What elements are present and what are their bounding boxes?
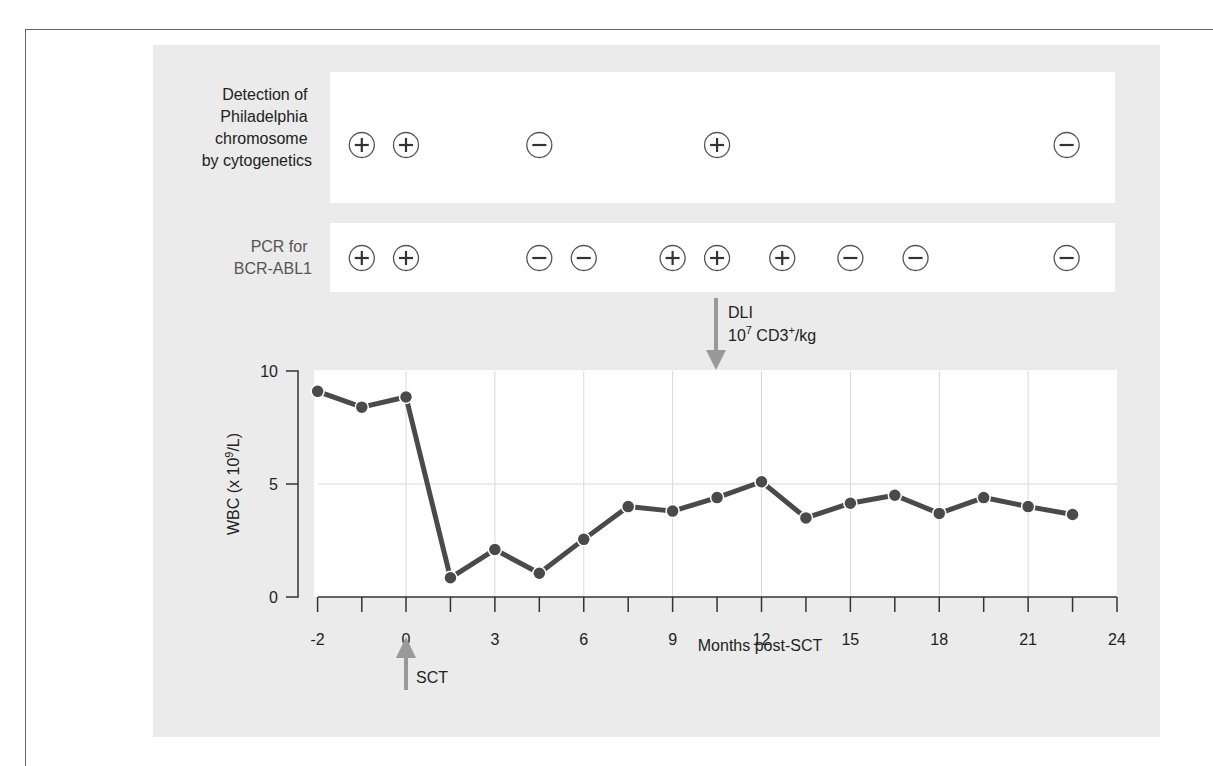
positive-result-icon xyxy=(394,133,419,158)
data-point xyxy=(577,533,590,546)
y-tick-5: 5 xyxy=(269,476,278,493)
data-point xyxy=(488,543,501,556)
y-tick-10: 10 xyxy=(260,363,278,380)
data-point xyxy=(666,505,679,518)
dli-dose-label: 107 CD3+/kg xyxy=(728,324,816,344)
data-point xyxy=(977,491,990,504)
negative-result-icon xyxy=(838,246,863,271)
x-tick-label: 9 xyxy=(668,631,677,648)
negative-result-icon xyxy=(571,246,596,271)
y-axis: 10 5 0 WBC (x 109/L) xyxy=(223,363,298,606)
data-point xyxy=(933,507,946,520)
sct-arrow-icon xyxy=(396,637,416,658)
y-tick-0: 0 xyxy=(269,589,278,606)
positive-result-icon xyxy=(705,133,730,158)
data-point xyxy=(844,497,857,510)
pcr-row-label: PCR for BCR-ABL1 xyxy=(234,238,312,277)
data-point xyxy=(355,401,368,414)
data-point xyxy=(622,500,635,513)
x-tick-label: 15 xyxy=(841,631,859,648)
x-tick-label: 18 xyxy=(930,631,948,648)
data-point xyxy=(1066,508,1079,521)
x-tick-label: 6 xyxy=(579,631,588,648)
data-point xyxy=(533,567,546,580)
cytogenetics-row-label: Detection of Philadelphia chromosome by … xyxy=(202,86,312,169)
x-axis-label: Months post-SCT xyxy=(698,637,823,654)
data-point xyxy=(444,571,457,584)
positive-result-icon xyxy=(349,246,374,271)
positive-result-icon xyxy=(349,133,374,158)
data-point xyxy=(400,390,413,403)
wbc-timeline-figure: Detection of Philadelphia chromosome by … xyxy=(0,0,1213,766)
x-tick-label: 21 xyxy=(1019,631,1037,648)
x-tick-label: -2 xyxy=(310,631,324,648)
data-point xyxy=(755,475,768,488)
data-point xyxy=(311,385,324,398)
positive-result-icon xyxy=(770,246,795,271)
x-tick-label: 3 xyxy=(490,631,499,648)
dli-label: DLI xyxy=(728,304,753,321)
sct-label: SCT xyxy=(416,669,448,686)
positive-result-icon xyxy=(660,246,685,271)
dli-annotation: DLI 107 CD3+/kg xyxy=(706,298,816,370)
negative-result-icon xyxy=(527,246,552,271)
negative-result-icon xyxy=(1054,246,1079,271)
sct-annotation: SCT xyxy=(396,637,448,690)
positive-result-icon xyxy=(705,246,730,271)
data-point xyxy=(888,489,901,502)
negative-result-icon xyxy=(527,133,552,158)
y-axis-label: WBC (x 109/L) xyxy=(223,433,242,535)
negative-result-icon xyxy=(1054,133,1079,158)
dli-arrow-icon xyxy=(706,350,726,370)
negative-result-icon xyxy=(903,246,928,271)
data-point xyxy=(799,511,812,524)
data-point xyxy=(1022,500,1035,513)
x-tick-label: 24 xyxy=(1108,631,1126,648)
positive-result-icon xyxy=(394,246,419,271)
data-point xyxy=(711,491,724,504)
